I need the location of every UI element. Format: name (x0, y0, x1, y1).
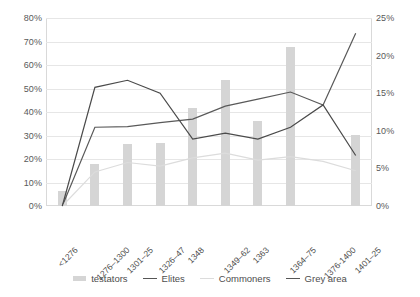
x-axis-labels: <12761276–13001301–251326–4713481349–621… (46, 206, 372, 260)
y-axis-right: 0%5%10%15%20%25% (376, 18, 418, 206)
y-tick-right: 15% (376, 88, 414, 98)
line-elites (62, 33, 355, 206)
y-tick-left: 10% (2, 178, 42, 188)
x-tick-label: 1348 (185, 245, 205, 265)
y-tick-right: 0% (376, 201, 414, 211)
y-tick-right: 5% (376, 163, 414, 173)
line-grey-area (62, 80, 355, 206)
x-tick-label: 1363 (250, 245, 270, 265)
y-tick-left: 0% (2, 201, 42, 211)
line-series-group (46, 18, 372, 206)
legend-item[interactable]: Grey area (286, 273, 347, 284)
legend-item[interactable]: testators (73, 273, 127, 284)
legend-swatch-bar (73, 276, 86, 281)
y-tick-left: 50% (2, 84, 42, 94)
legend-label: Elites (162, 273, 185, 284)
y-tick-right: 20% (376, 51, 414, 61)
chart-legend: testatorsElitesCommonersGrey area (0, 266, 420, 290)
y-tick-right: 10% (376, 126, 414, 136)
legend-label: Commoners (219, 273, 271, 284)
y-tick-left: 80% (2, 13, 42, 23)
y-tick-left: 30% (2, 131, 42, 141)
legend-item[interactable]: Commoners (200, 273, 271, 284)
y-axis-left: 0%10%20%30%40%50%60%70%80% (0, 18, 42, 206)
legend-item[interactable]: Elites (143, 273, 185, 284)
chart-figure: 0%10%20%30%40%50%60%70%80% 0%5%10%15%20%… (0, 0, 420, 297)
legend-swatch-line (286, 278, 300, 279)
y-tick-left: 60% (2, 60, 42, 70)
legend-label: Grey area (305, 273, 347, 284)
plot-area (46, 18, 372, 206)
y-tick-left: 70% (2, 37, 42, 47)
line-commoners (62, 153, 355, 206)
legend-label: testators (91, 273, 127, 284)
y-tick-right: 25% (376, 13, 414, 23)
legend-swatch-line (143, 278, 157, 279)
legend-swatch-line-light (200, 278, 214, 279)
y-tick-left: 20% (2, 154, 42, 164)
y-tick-left: 40% (2, 107, 42, 117)
